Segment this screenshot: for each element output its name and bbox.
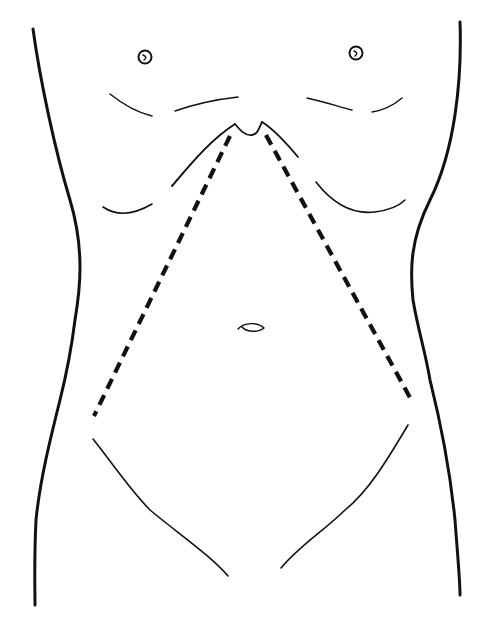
right-flank-outline [412,22,461,595]
costal-margin-left [172,124,235,186]
right-pectoral-line-2 [372,98,402,112]
right-nipple [350,47,363,60]
incision-line-right [266,135,413,403]
incision-line-left [94,136,230,416]
caption [0,615,493,625]
right-pectoral-line [307,98,352,110]
left-pectoral-line [110,94,152,116]
left-lower-rib-line [103,204,152,213]
left-pectoral-line-2 [175,97,238,111]
left-nipple [139,51,152,64]
left-inguinal-line [93,439,228,576]
right-lower-rib-line [316,182,405,212]
umbilicus [238,324,264,332]
left-flank-outline [33,29,80,605]
xiphoid-notch [235,122,262,135]
right-inguinal-line [281,425,408,568]
torso-diagram [0,0,493,625]
